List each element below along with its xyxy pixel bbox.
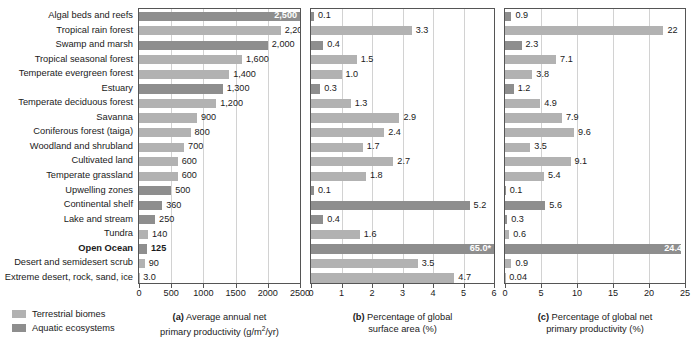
bar[interactable]: [139, 41, 268, 50]
bar-row[interactable]: 0.3: [505, 213, 685, 228]
bar-row[interactable]: 2.9: [311, 111, 494, 126]
bar-row[interactable]: 4.7: [311, 271, 494, 284]
bar-row[interactable]: 7.1: [505, 53, 685, 68]
bar[interactable]: [505, 172, 544, 181]
bar[interactable]: [311, 128, 384, 137]
bar-row[interactable]: 3.0: [139, 271, 300, 284]
bar[interactable]: [311, 259, 418, 268]
bar-row[interactable]: 0.1: [311, 9, 494, 24]
bar[interactable]: [505, 55, 556, 64]
bar[interactable]: [505, 259, 511, 268]
bar-row[interactable]: 24.4: [505, 242, 685, 257]
bar-row[interactable]: 1.5: [311, 53, 494, 68]
bar[interactable]: [505, 143, 530, 152]
bar-row[interactable]: 1.8: [311, 169, 494, 184]
bar[interactable]: [139, 186, 171, 195]
bar-row[interactable]: 700: [139, 140, 300, 155]
bar-row[interactable]: 2,000: [139, 38, 300, 53]
bar[interactable]: [139, 70, 229, 79]
bar[interactable]: [139, 172, 178, 181]
bar-row[interactable]: 600: [139, 154, 300, 169]
bar-row[interactable]: 9.6: [505, 125, 685, 140]
bar-row[interactable]: 250: [139, 213, 300, 228]
bar[interactable]: [505, 12, 511, 21]
bar[interactable]: [505, 128, 574, 137]
bar-row[interactable]: 900: [139, 111, 300, 126]
bar-row[interactable]: 0.3: [311, 82, 494, 97]
bar[interactable]: [139, 201, 162, 210]
bar-row[interactable]: 1.0: [311, 67, 494, 82]
bar[interactable]: [311, 55, 357, 64]
bar[interactable]: [139, 157, 178, 166]
bar-row[interactable]: 2,200: [139, 24, 300, 39]
bar[interactable]: [139, 128, 191, 137]
bar-row[interactable]: 2.3: [505, 38, 685, 53]
bar-row[interactable]: 1.3: [311, 96, 494, 111]
bar-row[interactable]: 0.04: [505, 271, 685, 284]
bar[interactable]: [139, 113, 197, 122]
bar[interactable]: [311, 41, 323, 50]
bar-row[interactable]: 5.4: [505, 169, 685, 184]
bar[interactable]: [505, 84, 514, 93]
bar[interactable]: [311, 172, 366, 181]
bar-row[interactable]: 5.6: [505, 198, 685, 213]
bar[interactable]: [505, 41, 522, 50]
bar-row[interactable]: 360: [139, 198, 300, 213]
bar-row[interactable]: 1.6: [311, 227, 494, 242]
bar-row[interactable]: 0.1: [505, 184, 685, 199]
bar-row[interactable]: 140: [139, 227, 300, 242]
legend-item-aquatic[interactable]: Aquatic ecosystems: [12, 322, 115, 334]
bar-row[interactable]: 2.4: [311, 125, 494, 140]
bar-row[interactable]: 1,400: [139, 67, 300, 82]
bar-row[interactable]: 600: [139, 169, 300, 184]
bar[interactable]: [139, 84, 223, 93]
bar-row[interactable]: 1,200: [139, 96, 300, 111]
bar-row[interactable]: 7.9: [505, 111, 685, 126]
bar[interactable]: [139, 55, 242, 64]
bar[interactable]: [139, 99, 216, 108]
bar-row[interactable]: 0.4: [311, 213, 494, 228]
bar[interactable]: [311, 70, 342, 79]
bar-row[interactable]: 0.6: [505, 227, 685, 242]
bar[interactable]: [311, 273, 454, 282]
bar-row[interactable]: 65.0*: [311, 242, 494, 257]
bar[interactable]: [311, 215, 323, 224]
bar-row[interactable]: 22: [505, 24, 685, 39]
bar-row[interactable]: 1.2: [505, 82, 685, 97]
bar[interactable]: [139, 259, 145, 268]
bar[interactable]: [505, 230, 509, 239]
bar-row[interactable]: 4.9: [505, 96, 685, 111]
bar[interactable]: [311, 26, 412, 35]
bar[interactable]: [139, 26, 281, 35]
bar[interactable]: [505, 201, 545, 210]
bar-row[interactable]: 0.9: [505, 9, 685, 24]
bar-row[interactable]: 800: [139, 125, 300, 140]
bar[interactable]: [311, 230, 360, 239]
bar-row[interactable]: 0.9: [505, 256, 685, 271]
bar-row[interactable]: 3.5: [505, 140, 685, 155]
legend-item-terrestrial[interactable]: Terrestrial biomes: [12, 308, 115, 320]
bar[interactable]: [139, 143, 184, 152]
bar[interactable]: [311, 201, 470, 210]
bar-row[interactable]: 2.7: [311, 154, 494, 169]
bar[interactable]: [311, 143, 363, 152]
bar[interactable]: [505, 157, 571, 166]
bar[interactable]: [505, 99, 540, 108]
bar-row[interactable]: 1,300: [139, 82, 300, 97]
bar[interactable]: [311, 99, 351, 108]
bar-row[interactable]: 3.5: [311, 256, 494, 271]
bar[interactable]: [505, 186, 506, 195]
bar[interactable]: [311, 186, 314, 195]
bar-row[interactable]: 0.1: [311, 184, 494, 199]
bar[interactable]: [311, 12, 314, 21]
bar[interactable]: [505, 113, 562, 122]
bar-row[interactable]: 3.8: [505, 67, 685, 82]
bar-row[interactable]: 9.1: [505, 154, 685, 169]
bar-row[interactable]: 500: [139, 184, 300, 199]
bar[interactable]: [505, 70, 532, 79]
bar[interactable]: [311, 244, 494, 253]
bar-row[interactable]: 0.4: [311, 38, 494, 53]
bar[interactable]: [139, 230, 148, 239]
bar[interactable]: [139, 215, 155, 224]
bar[interactable]: [311, 84, 320, 93]
